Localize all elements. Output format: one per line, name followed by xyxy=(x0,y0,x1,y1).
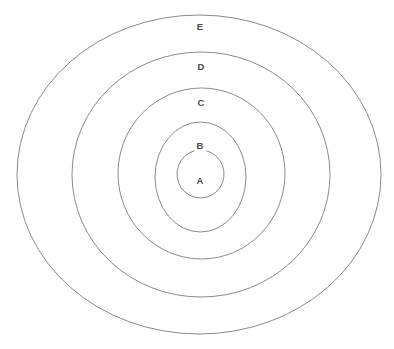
concentric-rings-diagram: E D C B A xyxy=(0,0,394,349)
ring-label-e: E xyxy=(197,22,204,32)
ring-label-c: C xyxy=(197,98,204,108)
ring-label-d: D xyxy=(197,62,204,72)
ring-label-a: A xyxy=(196,176,203,186)
ring-label-b: B xyxy=(196,141,203,151)
ring-ellipse-c xyxy=(118,88,285,259)
